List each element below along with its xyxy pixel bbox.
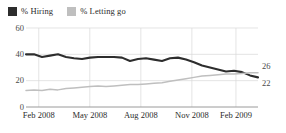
x-axis-tick-label: May 2008 [72,111,107,120]
x-axis-tick-label: Feb 2009 [220,111,252,120]
legend-label-letting-go: % Letting go [80,7,126,16]
x-axis-tick-label: Feb 2008 [23,111,55,120]
legend-swatch-icon-letting-go [67,7,76,16]
x-axis-tick-label: Aug 2008 [124,111,158,120]
chart-container: % Hiring % Letting go 0204060 Feb 2008Ma… [0,0,286,133]
y-axis-tick-label: 60 [2,24,24,33]
x-axis-tick-label: Nov 2008 [175,111,209,120]
horizontal-gridlines [26,28,258,107]
end-value-label-letting-go: 26 [262,62,271,71]
y-axis-tick-label: 0 [2,103,24,112]
x-axis: Feb 2008May 2008Aug 2008Nov 2008Feb 2009 [26,111,258,125]
legend-item-letting-go: % Letting go [67,7,126,16]
chart-legend: % Hiring % Letting go [8,3,126,19]
plot-svg [26,28,258,107]
y-axis: 0204060 [0,0,24,133]
y-axis-tick-label: 40 [2,50,24,59]
series-line-letting-go [26,73,258,91]
end-value-label-hiring: 22 [262,79,271,88]
legend-label-hiring: % Hiring [21,7,53,16]
plot-area [26,28,258,107]
y-axis-tick-label: 20 [2,76,24,85]
series-lines [26,54,258,90]
